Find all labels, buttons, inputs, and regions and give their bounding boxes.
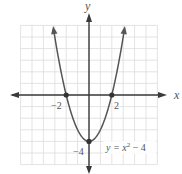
curve-right-arrow-icon xyxy=(121,26,127,34)
y-axis-top-arrow-icon xyxy=(86,13,92,22)
tick-label-neg4: −4 xyxy=(73,146,84,157)
x-axis-right-arrow-icon xyxy=(158,92,167,98)
equation-rhs: − 4 xyxy=(130,142,146,153)
point-marker xyxy=(109,92,114,97)
point-marker xyxy=(64,92,69,97)
equation-lhs: y = x xyxy=(105,142,127,153)
tick-label-pos2: 2 xyxy=(114,100,119,111)
parabola-chart: x y −2 2 −4 y = x2 − 4 xyxy=(0,0,182,174)
x-axis-label: x xyxy=(173,88,180,102)
svg-text:y = x2 − 4: y = x2 − 4 xyxy=(105,141,146,153)
tick-label-neg2: −2 xyxy=(51,100,62,111)
x-axis-left-arrow-icon xyxy=(10,92,19,98)
equation-label: y = x2 − 4 xyxy=(103,141,156,154)
y-axis-bottom-arrow-icon xyxy=(86,166,92,174)
curve-left-arrow-icon xyxy=(51,26,57,34)
y-axis-label: y xyxy=(84,0,91,13)
point-marker xyxy=(86,139,91,144)
